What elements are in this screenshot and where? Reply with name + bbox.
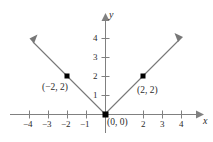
point-label-2-2: (2, 2) xyxy=(137,86,158,96)
y-axis-label: y xyxy=(109,10,113,20)
point-label-origin: (0, 0) xyxy=(107,118,128,128)
x-tick-label-neg2: −2 xyxy=(61,120,71,129)
absolute-value-graph-figure: −4 −3 −2 −1 2 3 4 1 2 3 4 y x (−2, 2) (2… xyxy=(0,0,213,142)
x-tick-label-neg1: −1 xyxy=(80,120,90,129)
y-tick-label-4: 4 xyxy=(93,34,98,43)
x-tick-label-2: 2 xyxy=(141,120,146,129)
point-label-neg2-2: (−2, 2) xyxy=(42,83,68,93)
point-marker-2-2 xyxy=(141,74,146,79)
y-tick-label-2: 2 xyxy=(93,72,98,81)
curve-right-arrowhead-icon xyxy=(175,33,184,42)
x-tick-label-4: 4 xyxy=(179,120,184,129)
x-tick-label-3: 3 xyxy=(160,120,165,129)
point-marker-neg2-2 xyxy=(65,74,70,79)
x-tick-label-neg4: −4 xyxy=(23,120,33,129)
x-axis-label: x xyxy=(203,116,207,126)
y-tick-label-3: 3 xyxy=(93,53,98,62)
x-tick-label-neg3: −3 xyxy=(42,120,52,129)
curve-left-arrowhead-icon xyxy=(30,35,38,44)
y-tick-label-1: 1 xyxy=(93,91,98,100)
